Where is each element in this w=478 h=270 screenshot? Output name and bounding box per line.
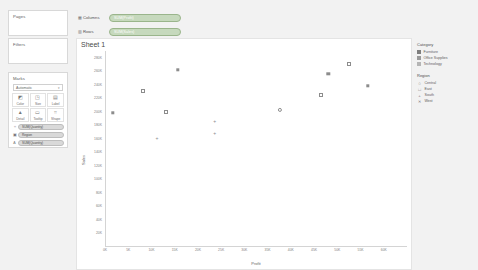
scatter-mark[interactable]: [347, 62, 351, 66]
scatter-mark[interactable]: [327, 72, 330, 75]
x-axis-tick-label: 60K: [381, 248, 387, 252]
tableau-worksheet-window: Pages Filters Marks Automatic ▾ ◩ Color …: [0, 0, 478, 270]
marks-label-label: Label: [52, 102, 60, 106]
label-field-icon: A: [12, 141, 17, 145]
scatter-mark[interactable]: +: [213, 131, 216, 136]
marks-label-button[interactable]: ▤ Label: [47, 93, 64, 107]
x-axis-tick-label: 55K: [358, 248, 364, 252]
y-axis-tick-label: 100K: [94, 177, 102, 181]
y-axis-tick-label: 140K: [94, 150, 102, 154]
columns-pill-profit-label: SUM(Profit): [114, 16, 134, 20]
x-axis-tick-label: 25K: [218, 248, 224, 252]
y-axis-tick-label: 200K: [94, 110, 102, 114]
marks-shape-label: Shape: [51, 117, 60, 121]
x-axis-tick-label: 35K: [265, 248, 271, 252]
category-color-swatch: [417, 62, 421, 66]
marks-pill-color-label: Region: [22, 133, 32, 137]
y-axis-tick-label: 220K: [94, 96, 102, 100]
circle-open-marker-icon: ○: [417, 81, 422, 86]
y-axis-tick-label: 160K: [94, 137, 102, 141]
marks-pill-row: ▣ Region: [12, 132, 64, 139]
legend-item-label: Office Supplies: [424, 56, 448, 60]
left-panel: Pages Filters Marks Automatic ▾ ◩ Color …: [0, 0, 74, 270]
color-field-icon: ▣: [12, 133, 17, 137]
marks-size-button[interactable]: ◳ Size: [30, 93, 47, 107]
marks-card-title: Marks: [9, 73, 67, 81]
filters-shelf-title: Filters: [9, 39, 67, 47]
scatter-mark[interactable]: [366, 84, 369, 87]
detail-icon: ▲: [17, 109, 24, 116]
scatter-mark[interactable]: [141, 89, 145, 93]
scatter-plot: Sales 280K260K240K220K200K180K160K140K12…: [77, 51, 409, 269]
marks-detail-label: Detail: [16, 117, 24, 121]
x-marker-icon: ✕: [417, 99, 422, 104]
pages-shelf[interactable]: Pages: [8, 10, 68, 36]
x-axis-tick-label: 20K: [195, 248, 201, 252]
marks-color-label: Color: [17, 102, 25, 106]
scatter-mark[interactable]: +: [213, 118, 216, 123]
scatter-mark[interactable]: +: [155, 136, 158, 141]
marks-pill-shape-label: SUM(Quantity): [22, 125, 43, 129]
marks-pill-row: A SUM(Quantity): [12, 140, 64, 147]
category-color-swatch: [417, 50, 421, 54]
scatter-mark[interactable]: [111, 111, 114, 114]
y-axis-ticks[interactable]: 280K260K240K220K200K180K160K140K120K100K…: [83, 51, 103, 247]
legend-item[interactable]: Technology: [417, 61, 478, 67]
legend-item-label: Furniture: [424, 50, 438, 54]
chevron-down-icon: ▾: [58, 86, 60, 90]
pages-shelf-title: Pages: [9, 11, 67, 19]
scatter-mark[interactable]: [319, 93, 323, 97]
marks-detail-button[interactable]: ▲ Detail: [12, 108, 29, 122]
scatter-mark[interactable]: [278, 108, 282, 112]
tooltip-icon: ▭: [34, 109, 41, 116]
legend-item[interactable]: ✕ West: [417, 98, 478, 104]
y-axis-tick-label: 60K: [96, 204, 102, 208]
mark-type-value: Automatic: [16, 86, 32, 90]
marks-pill-shape[interactable]: SUM(Quantity): [18, 124, 64, 131]
legend-item-label: Technology: [424, 62, 442, 66]
rows-pill-sales-label: SUM(Sales): [114, 30, 134, 34]
y-axis-tick-label: 80K: [96, 191, 102, 195]
marks-pill-label-label: SUM(Quantity): [22, 141, 43, 145]
x-axis-ticks[interactable]: 0K5K10K15K20K25K30K35K40K45K50K55K60K: [105, 247, 407, 257]
y-axis-tick-label: 260K: [94, 69, 102, 73]
legend-region-title: Region: [417, 73, 478, 78]
y-axis-tick-label: 20K: [96, 231, 102, 235]
scatter-mark[interactable]: [176, 68, 179, 71]
x-axis-tick-label: 50K: [334, 248, 340, 252]
columns-pill-profit[interactable]: SUM(Profit): [109, 14, 181, 22]
legend-item-label: East: [425, 87, 432, 91]
columns-shelf[interactable]: ▦ Columns SUM(Profit): [76, 12, 478, 23]
rows-shelf-label: Rows: [83, 29, 109, 34]
scatter-mark[interactable]: [164, 110, 168, 114]
marks-tooltip-button[interactable]: ▭ Tooltip: [30, 108, 47, 122]
marks-buttons-grid: ◩ Color ◳ Size ▤ Label ▲ Detail ▭ Tool: [12, 93, 64, 122]
marks-color-button[interactable]: ◩ Color: [12, 93, 29, 107]
legend-item-label: Central: [425, 81, 437, 85]
worksheet-view: Sheet 1 Sales 280K260K240K220K200K180K16…: [76, 38, 412, 270]
x-axis-tick-label: 5K: [126, 248, 130, 252]
filters-shelf[interactable]: Filters: [8, 38, 68, 64]
x-axis-title: Profit: [105, 261, 407, 266]
legend-category: Category Furniture Office Supplies Techn…: [417, 42, 478, 67]
marks-shape-button[interactable]: ⌗ Shape: [47, 108, 64, 122]
marks-card: Marks Automatic ▾ ◩ Color ◳ Size ▤ Label: [8, 72, 68, 148]
legend-item-label: South: [425, 93, 434, 97]
marks-pill-row: ⌗ SUM(Quantity): [12, 124, 64, 131]
legend-item-label: West: [425, 99, 433, 103]
rows-icon: ▥: [76, 29, 83, 34]
marks-size-label: Size: [35, 102, 41, 106]
rows-pill-sales[interactable]: SUM(Sales): [109, 28, 181, 36]
x-axis-tick-label: 0K: [103, 248, 107, 252]
marks-pill-color[interactable]: Region: [18, 132, 64, 139]
legend-category-title: Category: [417, 42, 478, 47]
shape-icon: ⌗: [52, 109, 59, 116]
x-axis-tick-label: 40K: [288, 248, 294, 252]
color-icon: ◩: [17, 94, 24, 101]
legend-region: Region ○ Central □ East + South ✕ West: [417, 73, 478, 104]
plot-area[interactable]: +++: [105, 51, 407, 247]
rows-shelf[interactable]: ▥ Rows SUM(Sales): [76, 26, 478, 37]
marks-pill-label[interactable]: SUM(Quantity): [18, 140, 64, 147]
mark-type-dropdown[interactable]: Automatic ▾: [13, 84, 63, 91]
columns-icon: ▦: [76, 15, 83, 20]
